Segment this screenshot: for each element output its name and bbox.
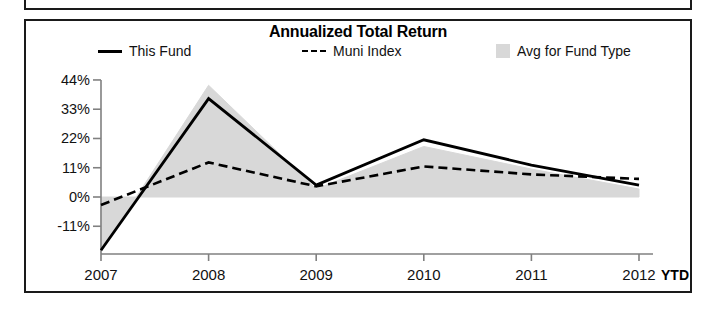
x-axis-tick-labels: 200720082009201020112012YTD bbox=[26, 21, 690, 291]
x-axis-label: 2011 bbox=[515, 266, 547, 283]
annualized-total-return-panel: Annualized Total Return This Fund Muni I… bbox=[24, 19, 692, 293]
x-axis-label: 2007 bbox=[84, 266, 117, 283]
x-axis-label: 2010 bbox=[407, 266, 440, 283]
x-axis-label: 2012 bbox=[622, 266, 655, 283]
adjacent-panel-fragment bbox=[24, 0, 692, 10]
x-axis-label: 2009 bbox=[300, 266, 333, 283]
ytd-annotation: YTD bbox=[661, 267, 689, 283]
x-axis-label: 2008 bbox=[192, 266, 225, 283]
plot-area: -11%0%11%22%33%44% 200720082009201020112… bbox=[26, 21, 690, 291]
